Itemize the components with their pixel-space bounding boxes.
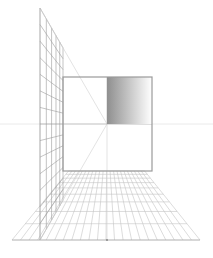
floor-ray	[141, 171, 191, 240]
guide-ray	[40, 8, 107, 124]
floor-ray	[106, 171, 107, 240]
floor-ray	[110, 171, 114, 240]
floor-ray	[117, 171, 132, 240]
guide-ray	[40, 124, 107, 240]
floor-ray	[63, 171, 89, 240]
perspective-drawing	[0, 0, 213, 258]
gradient-block	[107, 77, 152, 124]
wall-grid	[40, 8, 63, 240]
floor-ray	[72, 171, 93, 240]
floor-ray	[80, 171, 96, 240]
center-mark	[106, 239, 108, 241]
floor-ray	[114, 171, 124, 240]
floor-ray	[120, 171, 140, 240]
center-dot	[106, 239, 108, 241]
floor-ray	[134, 171, 174, 240]
floor-ray	[38, 171, 79, 240]
floor-ray	[55, 171, 86, 240]
